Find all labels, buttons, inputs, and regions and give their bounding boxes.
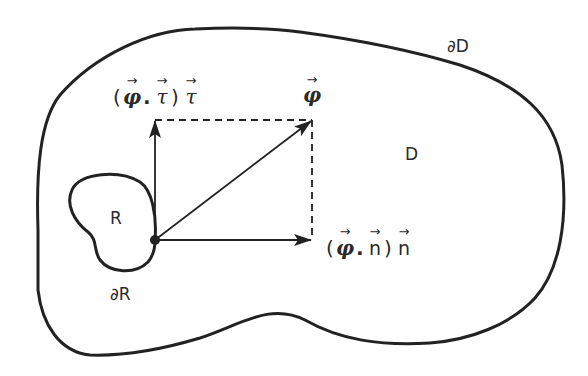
close-paren: ): [171, 85, 179, 109]
dot-operator: .: [356, 236, 364, 260]
tau-symbol: τ: [185, 85, 197, 109]
n-symbol: n: [369, 237, 381, 259]
inner-region-label: R: [110, 208, 122, 228]
phi-symbol: φ: [123, 85, 141, 109]
tangential-component-label: ( → φ . → τ ) → τ: [113, 73, 197, 109]
phi-vector-arrow: [155, 121, 311, 240]
outer-region-label: D: [405, 144, 418, 164]
phi-symbol: φ: [303, 83, 321, 107]
phi-vector-label: → φ: [303, 72, 321, 107]
normal-component-label: ( → φ . → n ) → n: [326, 224, 410, 260]
n-symbol: n: [398, 237, 410, 259]
close-paren: ): [384, 236, 392, 260]
dot-operator: .: [143, 85, 151, 109]
outer-boundary-label: ∂D: [447, 36, 469, 56]
outer-boundary-dD: [38, 28, 564, 355]
phi-symbol: φ: [336, 236, 354, 260]
tau-symbol: τ: [156, 85, 168, 109]
diagram-canvas: ∂D D R ∂R → φ ( → φ . → τ ) → τ ( → φ . …: [0, 0, 588, 376]
inner-boundary-label: ∂R: [110, 284, 131, 304]
base-point: [150, 235, 160, 245]
open-paren: (: [326, 236, 334, 260]
open-paren: (: [113, 85, 121, 109]
